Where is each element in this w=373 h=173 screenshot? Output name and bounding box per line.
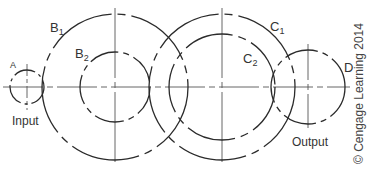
label-input: Input: [12, 114, 39, 128]
label-c2: C2: [243, 51, 257, 68]
gear-train-diagram: A B1 B2 C1 C2 D Input Output © Cengage L…: [0, 0, 373, 173]
label-c1: C1: [270, 19, 284, 36]
label-output: Output: [292, 135, 329, 149]
label-b1: B1: [50, 20, 64, 37]
copyright-notice: © Cengage Learning 2014: [352, 23, 366, 164]
label-b2: B2: [75, 46, 89, 63]
label-a: A: [10, 60, 16, 70]
